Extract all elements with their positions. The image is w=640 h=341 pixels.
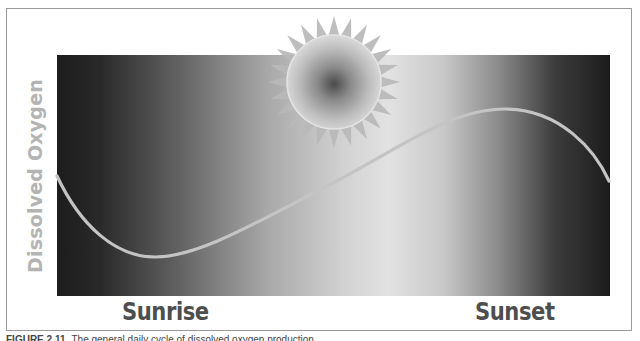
diagram-canvas bbox=[0, 0, 640, 341]
figure-number: FIGURE 2.11 bbox=[6, 334, 65, 341]
sunrise-label: Sunrise bbox=[122, 298, 209, 326]
sun-icon bbox=[268, 16, 400, 148]
figure-caption: FIGURE 2.11The general daily cycle of di… bbox=[6, 334, 317, 341]
caption-text: The general daily cycle of dissolved oxy… bbox=[71, 334, 316, 341]
sunset-label: Sunset bbox=[475, 298, 555, 326]
y-axis-label: Dissolved Oxygen bbox=[24, 79, 46, 273]
figure-container: Dissolved Oxygen Sunrise Sunset FIGURE 2… bbox=[0, 0, 640, 341]
